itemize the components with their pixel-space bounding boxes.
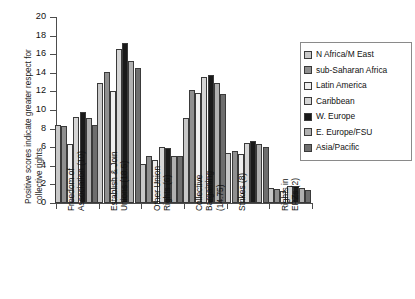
legend-item[interactable]: E. Europe/FSU (304, 125, 408, 141)
legend-item-label: Caribbean (316, 97, 355, 106)
x-axis-tick (141, 204, 142, 209)
legend-swatch-icon (304, 66, 312, 74)
legend-swatch-icon (304, 128, 312, 136)
y-axis-tick-label: 8 (24, 124, 46, 133)
y-axis-tick-label: 20 (24, 12, 46, 21)
legend-item-label: W. Europe (316, 112, 355, 121)
bar (305, 190, 311, 203)
legend-swatch-icon (304, 113, 312, 121)
x-axis-tick (56, 204, 57, 209)
y-axis-tick-label: 6 (24, 142, 46, 151)
x-axis-label: Establish & Join Unions (18.5) (109, 119, 130, 211)
y-axis-tick-label: 12 (24, 86, 46, 95)
x-axis-tick (227, 204, 228, 209)
legend-swatch-icon (304, 97, 312, 105)
x-axis-label: Rights in EPZs (2) (280, 119, 301, 211)
x-axis-label: Collective Bargaining (14.75) (194, 119, 225, 211)
x-axis-tick (184, 204, 185, 209)
y-axis-tick-label: 16 (24, 49, 46, 58)
legend-item[interactable]: Latin America (304, 78, 408, 94)
x-axis-tick (269, 204, 270, 209)
x-axis-label: Other Union Rights (6) (152, 119, 173, 211)
bar (225, 153, 231, 203)
legend-item-label: Latin America (316, 81, 367, 90)
y-axis-tick-label: 10 (24, 105, 46, 114)
x-axis-tick (99, 204, 100, 209)
bar (97, 83, 103, 203)
legend-item[interactable]: Caribbean (304, 94, 408, 110)
legend-item-label: E. Europe/FSU (316, 128, 372, 137)
x-axis-label: Freedom of Association (10) (66, 119, 87, 211)
legend-swatch-icon (304, 144, 312, 152)
y-axis-tick-label: 2 (24, 179, 46, 188)
y-axis-tick-label: 0 (24, 198, 46, 207)
bar (256, 144, 262, 203)
chart-figure: Positive scores indicate greater respect… (0, 0, 415, 299)
bar (268, 188, 274, 203)
bar (250, 141, 256, 203)
legend-item-label: N Africa/M East (316, 50, 374, 59)
bar (183, 118, 189, 203)
y-axis-tick-label: 14 (24, 68, 46, 77)
legend-item[interactable]: sub-Saharan Africa (304, 63, 408, 79)
bar (55, 125, 61, 203)
legend-swatch-icon (304, 51, 312, 59)
x-axis-label: Strikes (8) (237, 119, 247, 211)
y-axis-tick-label: 4 (24, 161, 46, 170)
legend-item[interactable]: Asia/Pacific (304, 140, 408, 156)
x-axis-tick (312, 204, 313, 209)
plot-area (56, 17, 312, 203)
legend-item-label: sub-Saharan Africa (316, 66, 387, 75)
legend-item[interactable]: N Africa/M East (304, 47, 408, 63)
legend-item-label: Asia/Pacific (316, 143, 359, 152)
bar (140, 164, 146, 203)
legend-item[interactable]: W. Europe (304, 109, 408, 125)
chart-legend: N Africa/M Eastsub-Saharan AfricaLatin A… (300, 42, 412, 161)
y-axis-tick-label: 18 (24, 31, 46, 40)
legend-swatch-icon (304, 82, 312, 90)
